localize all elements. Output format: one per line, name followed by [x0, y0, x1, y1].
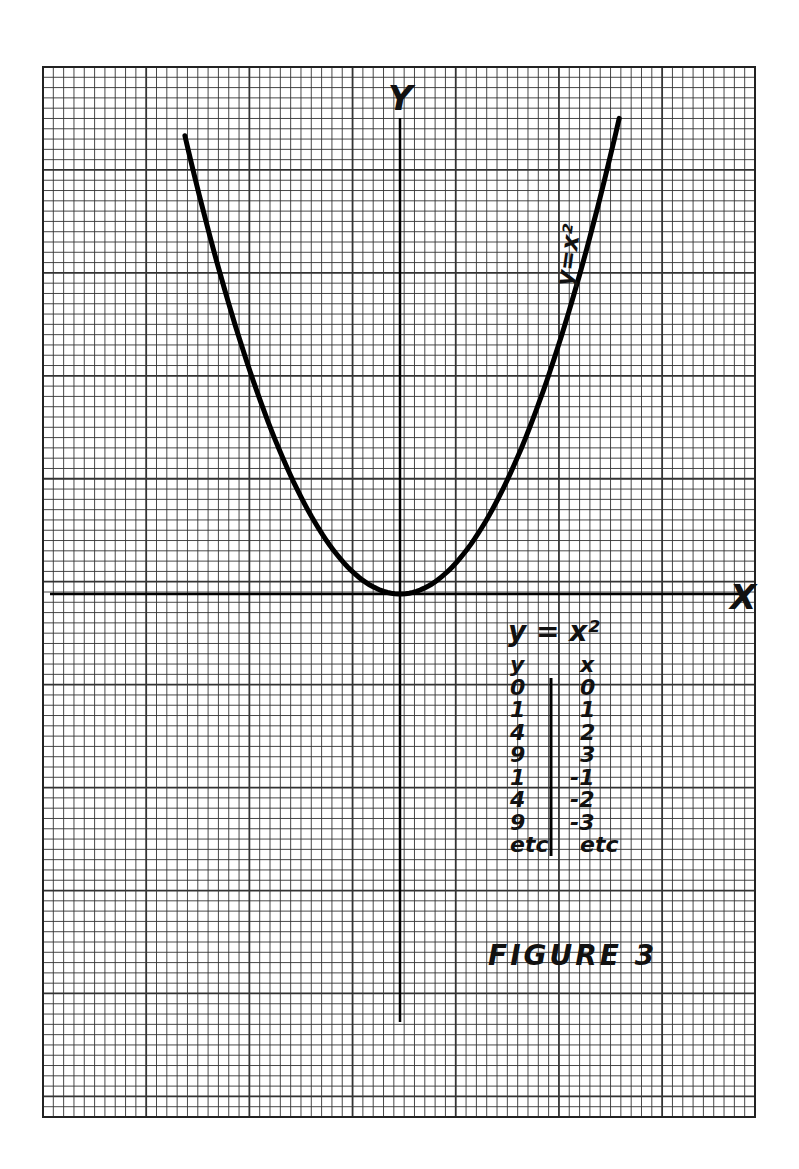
axes [50, 118, 740, 1022]
table-cell-x: -1 [570, 765, 594, 790]
table-cell-x: 2 [580, 720, 595, 745]
table-cell-x: -3 [570, 810, 594, 835]
table-cell-x: 0 [580, 675, 595, 700]
table-cell-y: etc [510, 832, 548, 857]
table-cell-y: 1 [510, 765, 525, 790]
graph-paper-figure: Y X y=x² y = x² yx001142931-14-29-3etcet… [0, 0, 799, 1169]
table-cell-y: 1 [510, 697, 525, 722]
table-header-y: y [510, 652, 526, 677]
table-cell-x: 3 [580, 742, 595, 767]
table-header-x: x [579, 652, 595, 677]
table-cell-y: 4 [509, 720, 525, 745]
y-axis-label: Y [388, 78, 416, 118]
table-cell-y: 0 [510, 675, 525, 700]
table-title: y = x² [508, 615, 600, 648]
table-cell-x: etc [580, 832, 618, 857]
table-cell-y: 9 [510, 742, 525, 767]
table-cell-x: -2 [570, 787, 594, 812]
figure-label: FIGURE 3 [488, 939, 657, 972]
table-cell-y: 9 [510, 810, 525, 835]
table-cell-y: 4 [509, 787, 525, 812]
x-axis-label: X [728, 577, 758, 617]
table-cell-x: 1 [580, 697, 595, 722]
